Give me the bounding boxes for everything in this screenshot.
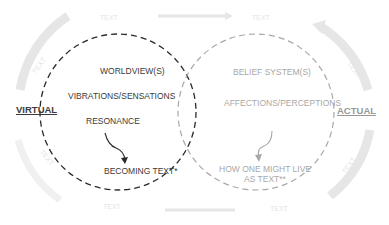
squiggle-arrow-right: [258, 131, 272, 157]
arc-arrow-top-left: [20, 16, 68, 90]
actual-label: ACTUAL: [337, 105, 376, 116]
squiggle-arrow-left: [105, 133, 125, 160]
live-as-text-line1: HOW ONE MIGHT LIVE: [210, 164, 320, 174]
virtual-label: VIRTUAL: [16, 104, 57, 115]
resonance-label: RESONANCE: [86, 116, 140, 126]
worldviews-label: WORLDVIEW(S): [100, 66, 165, 76]
bg-text-label: TEXT: [252, 14, 270, 21]
bg-text-label: TEXT: [270, 205, 288, 212]
live-as-text-label: HOW ONE MIGHT LIVE AS TEXT**: [210, 164, 320, 184]
bg-text-label: TEXT: [103, 203, 121, 210]
arc-arrow-bottom-left: [18, 140, 60, 200]
diagram-canvas: [0, 0, 389, 225]
arrowhead-right: [255, 154, 262, 162]
live-as-text-line2: AS TEXT**: [210, 174, 320, 184]
vibrations-sensations-label: VIBRATIONS/SENSATIONS: [68, 91, 175, 101]
affections-perceptions-label: AFFECTIONS/PERCEPTIONS: [224, 98, 341, 108]
belief-systems-label: BELIEF SYSTEM(S): [233, 67, 311, 77]
arrowhead-left: [121, 157, 128, 164]
bg-text-label: TEXT: [100, 14, 118, 21]
arrowhead-top: [225, 12, 233, 20]
arc-arrow-top-right: [320, 26, 368, 90]
becoming-text-label: BECOMING TEXT*: [104, 166, 178, 176]
